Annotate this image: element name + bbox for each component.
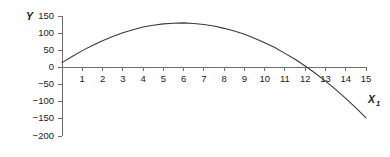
x-tick-label: 7	[201, 73, 206, 84]
x-tick-label: 15	[361, 73, 372, 84]
x-tick-label: 5	[161, 73, 166, 84]
x-tick-label: 8	[221, 73, 226, 84]
chart-container: 150100500−50−100−150−200 123456789101112…	[0, 0, 390, 157]
x-axis-title: X	[367, 93, 376, 105]
y-tick-label: 150	[38, 10, 54, 21]
x-tick-label: 1	[80, 73, 85, 84]
y-tick-label: 100	[38, 27, 54, 38]
x-tick-label: 3	[120, 73, 125, 84]
y-tick-label: 50	[43, 44, 54, 55]
y-tick-label: −200	[33, 130, 54, 141]
curve-series	[62, 23, 366, 118]
x-tick-label: 2	[100, 73, 105, 84]
curve-path	[62, 23, 366, 118]
y-tick-label: −50	[38, 78, 54, 89]
y-tick-label: 0	[49, 61, 54, 72]
x-tick-label: 11	[280, 73, 290, 84]
x-tick-label: 9	[242, 73, 247, 84]
x-tick-label: 6	[181, 73, 186, 84]
x-tick-label: 14	[340, 73, 351, 84]
y-tick-label: −100	[33, 95, 54, 106]
y-axis: 150100500−50−100−150−200	[33, 10, 62, 141]
quadratic-line-chart: 150100500−50−100−150−200 123456789101112…	[0, 0, 390, 157]
x-tick-label: 10	[259, 73, 270, 84]
x-axis-subscript: 1	[376, 99, 380, 108]
y-axis-title: Y	[26, 10, 34, 22]
x-tick-label: 12	[300, 73, 311, 84]
y-tick-label: −150	[33, 112, 54, 123]
x-tick-label: 4	[140, 73, 145, 84]
